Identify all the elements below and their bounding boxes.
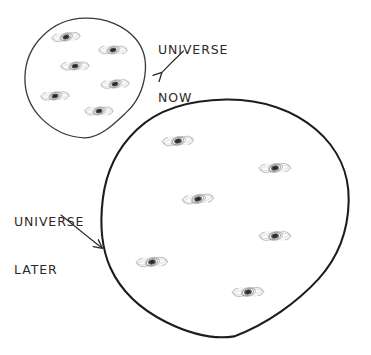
galaxy [40, 87, 70, 105]
galaxy [100, 75, 131, 94]
galaxy [98, 42, 128, 59]
label-universe-now-line1: UNIVERSE [158, 42, 228, 58]
universe-now-circle [25, 18, 146, 138]
label-universe-later-line2: LATER [14, 262, 84, 278]
label-universe-later-line1: UNIVERSE [14, 214, 84, 230]
galaxy [51, 27, 82, 46]
label-universe-later: UNIVERSE LATER [14, 182, 84, 310]
galaxy [231, 282, 264, 301]
galaxy [258, 158, 291, 177]
galaxy [60, 57, 90, 75]
galaxy [258, 227, 291, 246]
label-universe-now: UNIVERSE NOW [158, 10, 228, 138]
universe-now-group [25, 18, 146, 138]
galaxy-cluster-later [135, 131, 291, 302]
galaxy [135, 252, 168, 272]
label-universe-now-line2: NOW [158, 90, 228, 106]
galaxy [84, 102, 114, 119]
universe-expansion-diagram: UNIVERSE NOW UNIVERSE LATER [0, 0, 371, 355]
galaxy-cluster-now [40, 27, 130, 119]
galaxy [181, 189, 215, 210]
